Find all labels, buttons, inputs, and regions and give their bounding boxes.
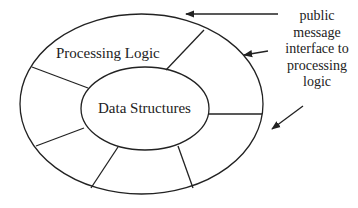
annotation-line: public — [276, 8, 358, 25]
ring-divider-line — [178, 146, 193, 188]
ring-divider-line — [166, 30, 204, 70]
annotation-line: processing — [276, 58, 358, 75]
ring-divider-line — [91, 147, 118, 188]
data-structures-label: Data Structures — [98, 101, 191, 116]
public-interface-annotation: public message interface to processing l… — [276, 8, 358, 91]
arrow-icon — [272, 106, 303, 129]
arrow-icon — [244, 51, 268, 55]
ring-divider-line — [32, 67, 88, 88]
annotation-line: message — [276, 25, 358, 42]
ring-divider-line — [36, 128, 84, 146]
annotation-line: interface to — [276, 41, 358, 58]
annotation-line: logic — [276, 74, 358, 91]
processing-logic-label: Processing Logic — [56, 46, 160, 61]
